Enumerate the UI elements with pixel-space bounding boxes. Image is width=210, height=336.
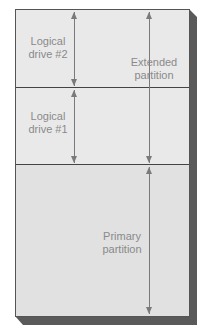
disk-shadow-right	[189, 9, 197, 325]
label-primary-partition: Primary partition	[96, 230, 148, 256]
label-line: Extended	[126, 56, 182, 69]
primary-partition-extent-arrow-icon	[149, 167, 150, 314]
label-line: Logical	[24, 35, 72, 48]
label-line: Logical	[24, 110, 72, 123]
label-line: partition	[96, 243, 148, 256]
disk-diagram: Logical drive #2 Logical drive #1 Extend…	[15, 9, 190, 317]
disk-shadow-bottom	[15, 316, 197, 325]
label-line: partition	[126, 69, 182, 82]
logical-drive-1-extent-arrow-icon	[74, 90, 75, 163]
label-line: drive #2	[24, 48, 72, 61]
extended-partition-extent-arrow-icon	[149, 12, 150, 163]
label-extended-partition: Extended partition	[126, 56, 182, 82]
label-line: Primary	[96, 230, 148, 243]
label-line: drive #1	[24, 123, 72, 136]
label-logical-drive-1: Logical drive #1	[24, 110, 72, 136]
label-logical-drive-2: Logical drive #2	[24, 35, 72, 61]
logical-drive-2-extent-arrow-icon	[74, 12, 75, 86]
